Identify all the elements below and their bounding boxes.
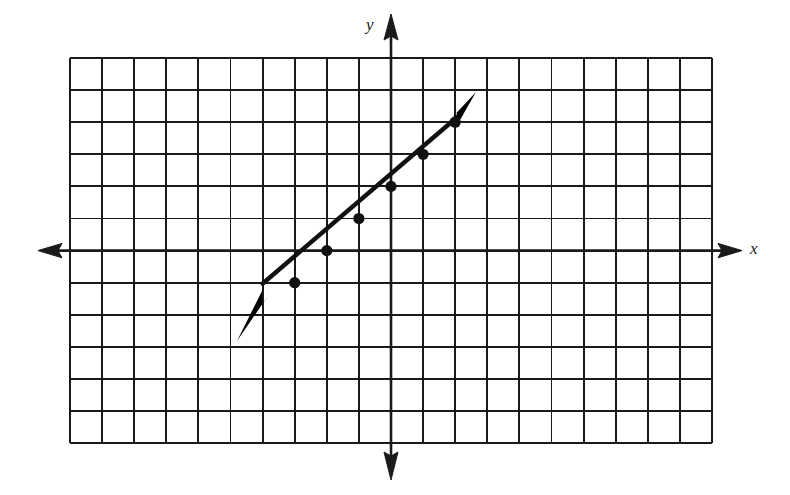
y-axis-bottom-arrowhead bbox=[384, 452, 398, 480]
coordinate-plane-svg bbox=[0, 0, 790, 495]
marked-point bbox=[418, 149, 429, 160]
x-axis-right-arrowhead bbox=[718, 243, 742, 257]
marked-point bbox=[385, 181, 396, 192]
x-axis-left-arrowhead bbox=[38, 243, 62, 257]
y-axis-label: y bbox=[366, 16, 374, 33]
plotted-line-shaft bbox=[261, 113, 462, 285]
marked-point bbox=[289, 277, 300, 288]
marked-point bbox=[450, 117, 461, 128]
axes bbox=[38, 14, 742, 480]
plotted-line-series bbox=[237, 92, 476, 341]
x-axis-label: x bbox=[750, 240, 758, 257]
y-axis-top-arrowhead bbox=[384, 14, 398, 40]
graph-figure: x y bbox=[0, 0, 790, 495]
marked-point bbox=[321, 245, 332, 256]
marked-point bbox=[353, 213, 364, 224]
marked-points bbox=[289, 117, 461, 289]
